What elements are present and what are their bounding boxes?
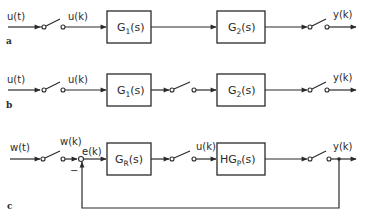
panel-label: c bbox=[7, 201, 13, 211]
sampler-switch-icon bbox=[170, 151, 196, 161]
panel-label: a bbox=[6, 36, 12, 46]
svg-text:G1(s): G1(s) bbox=[117, 84, 145, 99]
panel-label: b bbox=[6, 100, 12, 110]
block-g2: G2(s) bbox=[217, 11, 265, 43]
sampler-switch-icon bbox=[308, 151, 331, 161]
error-signal-label: e(k) bbox=[82, 146, 102, 157]
svg-text:G2(s): G2(s) bbox=[228, 21, 256, 36]
sampler-switch-icon bbox=[42, 82, 65, 92]
panel-b: u(t) u(k) G1(s) G2(s) bbox=[6, 72, 356, 110]
input-signal-label: u(t) bbox=[7, 11, 25, 22]
sampler-switch-icon bbox=[170, 82, 196, 92]
sampled-signal-label: w(k) bbox=[60, 136, 82, 147]
svg-text:GR(s): GR(s) bbox=[115, 153, 143, 168]
sampler-switch-icon bbox=[41, 151, 65, 161]
input-signal-label: w(t) bbox=[10, 142, 30, 153]
svg-text:G2(s): G2(s) bbox=[228, 84, 256, 99]
panel-a: u(t) u(k) G1(s) G2(s) y(k) a bbox=[6, 9, 356, 46]
block-hgp: HGP(s) bbox=[217, 143, 265, 175]
panel-c: w(t) w(k) e(k) − GR(s) u(k) HGP(s) bbox=[7, 136, 356, 211]
block-g1: G1(s) bbox=[107, 74, 151, 106]
input-signal-label: u(t) bbox=[7, 74, 25, 85]
sampler-switch-icon bbox=[40, 19, 65, 29]
feedback-sign: − bbox=[70, 165, 78, 176]
block-diagram: u(t) u(k) G1(s) G2(s) y(k) a bbox=[0, 0, 370, 220]
output-signal-label: y(k) bbox=[333, 141, 353, 152]
control-signal-label: u(k) bbox=[196, 141, 216, 152]
sampled-signal-label: u(k) bbox=[68, 74, 88, 85]
block-g1: G1(s) bbox=[107, 11, 151, 43]
svg-text:G1(s): G1(s) bbox=[117, 21, 145, 36]
block-g2: G2(s) bbox=[217, 74, 265, 106]
block-gr: GR(s) bbox=[107, 143, 151, 175]
sampler-switch-icon bbox=[308, 82, 329, 92]
summing-junction bbox=[79, 157, 84, 162]
sampled-signal-label: u(k) bbox=[68, 11, 88, 22]
output-signal-label: y(k) bbox=[333, 9, 353, 20]
output-signal-label: y(k) bbox=[333, 72, 353, 83]
sampler-switch-icon bbox=[308, 19, 329, 29]
